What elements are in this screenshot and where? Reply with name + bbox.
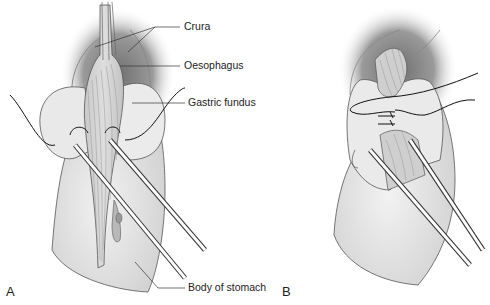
fundus-left <box>40 87 92 159</box>
illustration <box>0 0 490 305</box>
panel-b-drawing <box>334 5 483 285</box>
label-crura: Crura <box>184 20 210 32</box>
label-gastric-fundus: Gastric fundus <box>188 96 256 108</box>
panel-label-b: B <box>282 284 291 299</box>
label-body-of-stomach: Body of stomach <box>188 281 266 293</box>
panel-label-a: A <box>6 284 15 299</box>
panel-a-drawing <box>10 2 205 292</box>
label-oesophagus: Oesophagus <box>184 59 244 71</box>
